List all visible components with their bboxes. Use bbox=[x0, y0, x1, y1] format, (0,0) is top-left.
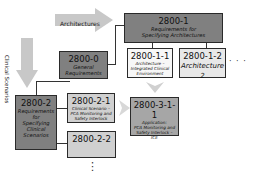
scenario-to-application-arrow-icon bbox=[119, 100, 130, 116]
box-id: 2800-0 bbox=[68, 54, 98, 64]
box-2800-3-1-1: 2800-3-1-1 Application: PCA Monitoring a… bbox=[130, 97, 179, 136]
box-2800-2: 2800-2 Requirements for Specifying Clini… bbox=[15, 95, 57, 150]
box-id: 2800-1-2 bbox=[183, 51, 222, 61]
architectures-arrow-label: Architectures bbox=[60, 20, 100, 27]
box-desc-line: ICE bbox=[151, 135, 158, 140]
connector-0-to-2-horizontal bbox=[36, 81, 70, 82]
clinical-scenarios-arrow-icon bbox=[16, 38, 38, 88]
architecture-to-application-arrow-icon bbox=[146, 82, 164, 93]
box-id: 2800-3-1-1 bbox=[131, 100, 178, 120]
box-id: 2800-2-2 bbox=[72, 134, 111, 144]
connector-0-to-1-bottom bbox=[108, 64, 116, 65]
box-2800-1-1: 2800-1-1 Architecture – Integrated Clini… bbox=[127, 48, 173, 78]
box-id: 2800-1-1 bbox=[131, 51, 170, 61]
box-desc-line: Scenarios bbox=[23, 132, 48, 138]
box-id: 2800-2 bbox=[21, 98, 51, 108]
box-id: 2800-2-1 bbox=[72, 96, 111, 106]
box-desc-line: Environment bbox=[137, 71, 164, 76]
box-2800-1: 2800-1 Requirements for Specifying Archi… bbox=[124, 13, 223, 43]
box-2800-2-1: 2800-2-1 Clinical Scenario – PCA Monitor… bbox=[67, 93, 115, 123]
box-id: 2800-1 bbox=[158, 16, 188, 26]
connector-2-to-2-2 bbox=[57, 143, 67, 144]
connector-2-to-2-1 bbox=[57, 108, 67, 109]
box-2800-1-2: 2800-1-2 Architecture 2 bbox=[179, 48, 226, 78]
clinical-scenarios-arrow-label: Clinical Scenarios bbox=[4, 55, 10, 103]
box-desc-line: Safety Interlock bbox=[74, 116, 107, 121]
box-desc-line: Architecture 2 bbox=[180, 61, 225, 81]
more-scenarios-ellipsis: ⋮ bbox=[87, 160, 99, 173]
box-2800-0: 2800-0 General Requirements bbox=[59, 51, 108, 79]
box-2800-2-2: 2800-2-2 bbox=[67, 131, 116, 158]
more-architectures-ellipsis: · · · bbox=[229, 57, 247, 66]
connector-0-to-1-vertical bbox=[115, 25, 116, 65]
box-desc-line: Specifying Architectures bbox=[142, 32, 205, 38]
box-desc-line: Requirements bbox=[65, 70, 101, 76]
